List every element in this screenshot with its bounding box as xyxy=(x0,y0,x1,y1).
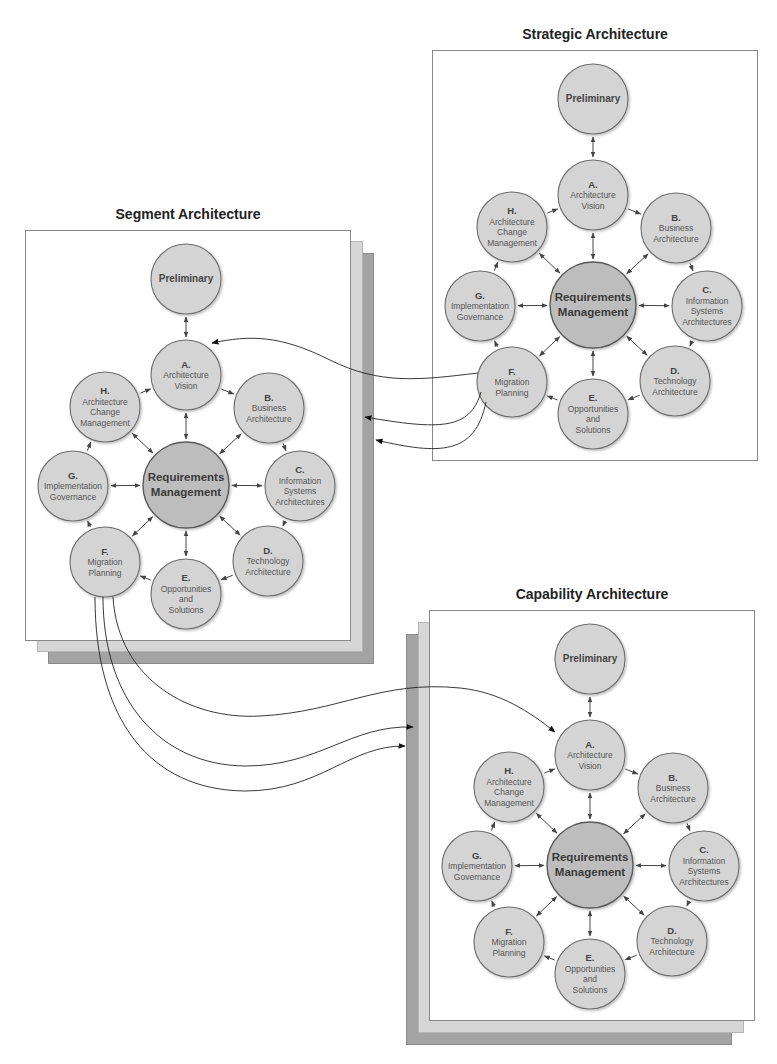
edge-C-D xyxy=(283,521,285,526)
node-text: Migration xyxy=(88,557,123,567)
node-text: Vision xyxy=(175,381,198,391)
strategic-node-G: G.ImplementationGovernance xyxy=(445,271,515,341)
node-text: H. xyxy=(504,765,514,776)
edge-D-E xyxy=(625,955,636,960)
node-text: Migration xyxy=(495,377,530,387)
segment-node-G: G.ImplementationGovernance xyxy=(38,451,108,521)
node-text: Business xyxy=(656,783,691,793)
edge-RM-B xyxy=(627,254,648,274)
node-text: Systems xyxy=(691,306,724,316)
edge-F-G xyxy=(88,521,91,527)
strategic-node-D: D.TechnologyArchitecture xyxy=(640,346,710,416)
node-text: Preliminary xyxy=(159,273,214,284)
node-text: A. xyxy=(181,359,191,370)
edge-RM-D xyxy=(624,896,644,915)
edge-H-A xyxy=(547,209,557,213)
edge-B-C xyxy=(283,443,286,450)
edge-C-D xyxy=(687,901,689,906)
node-text: Solutions xyxy=(169,605,204,615)
edge-RM-H xyxy=(539,253,559,273)
capability-node-H: H.ArchitectureChangeManagement xyxy=(474,752,544,822)
node-text: Requirements xyxy=(148,471,225,483)
edge-B-C xyxy=(690,263,693,270)
strategic-node-C: C.InformationSystemsArchitectures xyxy=(672,271,742,341)
node-text: Governance xyxy=(454,872,501,882)
node-text: Solutions xyxy=(576,425,611,435)
edge-H-A xyxy=(140,389,150,393)
strategic-node-prelim: Preliminary xyxy=(558,64,628,134)
cross-link-strategic-F-to-segment-stack xyxy=(365,392,481,425)
node-text: H. xyxy=(507,205,517,216)
segment-node-E: E.OpportunitiesandSolutions xyxy=(151,559,221,629)
edge-E-F xyxy=(544,956,554,960)
node-text: Technology xyxy=(653,376,697,386)
capability-node-D: D.TechnologyArchitecture xyxy=(637,906,707,976)
edge-RM-H xyxy=(132,433,152,453)
node-text: Planning xyxy=(492,948,525,958)
segment-node-B: B.BusinessArchitecture xyxy=(234,373,304,443)
node-text: Implementation xyxy=(448,861,506,871)
edge-RM-H xyxy=(536,813,556,833)
node-text: E. xyxy=(586,952,595,963)
edge-D-E xyxy=(628,395,639,400)
node-text: Systems xyxy=(284,486,317,496)
node-text: Architecture xyxy=(489,217,535,227)
cross-link-segment-F-to-capability-stack xyxy=(95,597,405,791)
node-text: Implementation xyxy=(44,481,102,491)
strategic-node-RM: RequirementsManagement xyxy=(550,262,636,348)
segment-node-C: C.InformationSystemsArchitectures xyxy=(265,451,335,521)
node-text: Governance xyxy=(457,312,504,322)
edge-F-G xyxy=(492,901,495,907)
node-text: Change xyxy=(497,227,527,237)
node-text: Architecture xyxy=(570,190,616,200)
node-text: C. xyxy=(702,284,712,295)
node-text: Planning xyxy=(88,568,121,578)
node-text: D. xyxy=(263,545,273,556)
node-text: E. xyxy=(182,572,191,583)
node-text: and xyxy=(583,974,597,984)
diagram-canvas: PreliminaryA.ArchitectureVisionB.Busines… xyxy=(0,0,777,1064)
edge-RM-F xyxy=(537,897,557,916)
cross-link-strategic-F-to-segment-A xyxy=(212,338,478,378)
strategic-node-A: A.ArchitectureVision xyxy=(558,160,628,230)
node-text: Vision xyxy=(582,201,605,211)
capability-node-prelim: Preliminary xyxy=(555,624,625,694)
node-text: and xyxy=(586,414,600,424)
node-text: F. xyxy=(101,546,108,557)
node-text: Information xyxy=(686,296,729,306)
edge-B-C xyxy=(687,823,690,830)
node-text: Management xyxy=(558,306,628,318)
node-text: Implementation xyxy=(451,301,509,311)
node-text: Management xyxy=(151,486,221,498)
edge-G-H xyxy=(494,262,497,271)
edge-RM-D xyxy=(220,516,240,535)
edge-RM-D xyxy=(627,336,647,355)
node-text: Planning xyxy=(495,388,528,398)
node-text: Architectures xyxy=(679,877,729,887)
node-text: Architecture xyxy=(246,414,292,424)
node-text: Architecture xyxy=(486,777,532,787)
node-text: Management xyxy=(80,418,130,428)
edge-C-D xyxy=(690,341,692,346)
node-text: Architecture xyxy=(649,947,695,957)
capability-node-F: F.MigrationPlanning xyxy=(474,907,544,977)
segment-node-D: D.TechnologyArchitecture xyxy=(233,526,303,596)
capability-node-C: C.InformationSystemsArchitectures xyxy=(669,831,739,901)
node-text: G. xyxy=(472,850,482,861)
node-text: D. xyxy=(667,925,677,936)
node-text: Architecture xyxy=(163,370,209,380)
strategic-cycle-diagram: PreliminaryA.ArchitectureVisionB.Busines… xyxy=(445,64,742,449)
node-text: H. xyxy=(100,385,110,396)
edge-E-F xyxy=(547,396,557,400)
node-text: A. xyxy=(585,739,595,750)
edge-RM-B xyxy=(220,434,241,454)
node-text: Governance xyxy=(50,492,97,502)
edge-D-E xyxy=(221,575,232,580)
node-text: E. xyxy=(589,392,598,403)
capability-node-A: A.ArchitectureVision xyxy=(555,720,625,790)
edge-H-A xyxy=(544,769,554,773)
node-text: G. xyxy=(475,290,485,301)
node-text: B. xyxy=(671,212,681,223)
node-text: Change xyxy=(90,407,120,417)
segment-cycle-diagram: PreliminaryA.ArchitectureVisionB.Busines… xyxy=(38,244,335,629)
